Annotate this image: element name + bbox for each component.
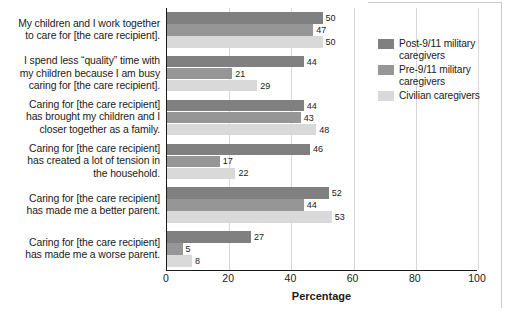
bar[interactable] — [167, 68, 232, 80]
bar-fill — [167, 231, 251, 243]
x-tick-20: 20 — [222, 272, 234, 284]
bar-value-label: 50 — [326, 37, 336, 47]
bar[interactable] — [167, 187, 329, 199]
bar[interactable] — [167, 144, 310, 156]
bar-value-label: 47 — [316, 25, 326, 35]
bar-value-label: 21 — [235, 69, 245, 79]
bar-fill — [167, 68, 232, 80]
bar-value-label: 8 — [195, 256, 200, 266]
legend-swatch-icon — [378, 91, 394, 101]
x-tick-100: 100 — [468, 272, 486, 284]
bar[interactable] — [167, 12, 323, 24]
bar-group: 524453 — [167, 183, 477, 227]
bar-value-label: 44 — [307, 101, 317, 111]
category-label-line: my children because I am busy — [0, 68, 160, 80]
legend-label-line: Post-9/11 military — [399, 38, 475, 50]
bar-value-label: 44 — [307, 57, 317, 67]
category-label-line: I spend less “quality” time with — [0, 55, 160, 67]
category-label: Caring for [the care recipient]has made … — [0, 237, 160, 262]
category-label-line: to care for [the care recipient]. — [0, 30, 160, 42]
category-label-line: Caring for [the care recipient] — [0, 237, 160, 249]
bar-value-label: 43 — [304, 113, 314, 123]
bar[interactable] — [167, 100, 304, 112]
bar[interactable] — [167, 156, 220, 168]
bar-value-label: 53 — [335, 212, 345, 222]
bar[interactable] — [167, 243, 183, 255]
category-label-line: has made me a better parent. — [0, 205, 160, 217]
bar-fill — [167, 156, 220, 168]
x-tick-80: 80 — [409, 272, 421, 284]
x-axis-title: Percentage — [166, 290, 477, 302]
bar-fill — [167, 100, 304, 112]
chart-legend: Post-9/11 militarycaregiversPre-9/11 mil… — [378, 38, 506, 105]
bar[interactable] — [167, 124, 316, 136]
bar-group: 461722 — [167, 140, 477, 184]
legend-item[interactable]: Post-9/11 militarycaregivers — [378, 38, 506, 61]
bar-fill — [167, 80, 257, 92]
bar-chart-figure: My children and I work togetherto care f… — [0, 0, 511, 314]
bar-value-label: 17 — [223, 156, 233, 166]
legend-label-line: caregivers — [399, 76, 471, 88]
category-label-line: closer together as a family. — [0, 124, 160, 136]
category-label: Caring for [the care recipient]has creat… — [0, 143, 160, 180]
bar[interactable] — [167, 112, 301, 124]
legend-item[interactable]: Pre-9/11 militarycaregivers — [378, 64, 506, 87]
bar-group: 2758 — [167, 227, 477, 271]
category-label-line: the household. — [0, 168, 160, 180]
category-label-line: has made me a worse parent. — [0, 249, 160, 261]
bar-fill — [167, 12, 323, 24]
bar-value-label: 52 — [332, 188, 342, 198]
bar-value-label: 22 — [238, 168, 248, 178]
category-label-line: caring for [the care recipient]. — [0, 80, 160, 92]
bar-value-label: 50 — [326, 13, 336, 23]
bar-fill — [167, 243, 183, 255]
figure-top-border — [368, 2, 502, 3]
bar[interactable] — [167, 199, 304, 211]
legend-label: Post-9/11 militarycaregivers — [399, 38, 475, 61]
x-tick-40: 40 — [285, 272, 297, 284]
legend-swatch-icon — [378, 39, 394, 49]
bar-fill — [167, 144, 310, 156]
bar-fill — [167, 211, 332, 223]
bar-fill — [167, 255, 192, 267]
bar[interactable] — [167, 80, 257, 92]
bar-value-label: 44 — [307, 200, 317, 210]
legend-label-line: Civilian caregivers — [399, 90, 480, 102]
category-label-line: has brought my children and I — [0, 111, 160, 123]
bar-fill — [167, 112, 301, 124]
category-label-line: Caring for [the care recipient] — [0, 193, 160, 205]
category-label-line: has created a lot of tension in — [0, 155, 160, 167]
bar[interactable] — [167, 231, 251, 243]
category-label: Caring for [the care recipient]has made … — [0, 193, 160, 218]
bar-value-label: 5 — [186, 244, 191, 254]
bar[interactable] — [167, 168, 235, 180]
bar[interactable] — [167, 56, 304, 68]
legend-label: Pre-9/11 militarycaregivers — [399, 64, 471, 87]
legend-label-line: caregivers — [399, 50, 475, 62]
bar-fill — [167, 24, 313, 36]
bar-fill — [167, 168, 235, 180]
category-label-line: My children and I work together — [0, 18, 160, 30]
bar-value-label: 29 — [260, 81, 270, 91]
bar-fill — [167, 56, 304, 68]
legend-item[interactable]: Civilian caregivers — [378, 90, 506, 102]
category-axis-labels: My children and I work togetherto care f… — [0, 8, 164, 271]
bar-fill — [167, 36, 323, 48]
legend-label-line: Pre-9/11 military — [399, 64, 471, 76]
bar-value-label: 46 — [313, 144, 323, 154]
x-axis-tick-labels: 020406080100 — [166, 272, 477, 288]
bar-value-label: 27 — [254, 232, 264, 242]
bar[interactable] — [167, 36, 323, 48]
category-label: I spend less “quality” time withmy child… — [0, 55, 160, 92]
category-label-line: Caring for [the care recipient] — [0, 99, 160, 111]
bar[interactable] — [167, 255, 192, 267]
bar-fill — [167, 199, 304, 211]
bar[interactable] — [167, 211, 332, 223]
x-tick-0: 0 — [163, 272, 169, 284]
legend-label: Civilian caregivers — [399, 90, 480, 102]
category-label-line: Caring for [the care recipient] — [0, 143, 160, 155]
x-tick-60: 60 — [347, 272, 359, 284]
category-label: My children and I work togetherto care f… — [0, 18, 160, 43]
bar[interactable] — [167, 24, 313, 36]
bar-fill — [167, 187, 329, 199]
